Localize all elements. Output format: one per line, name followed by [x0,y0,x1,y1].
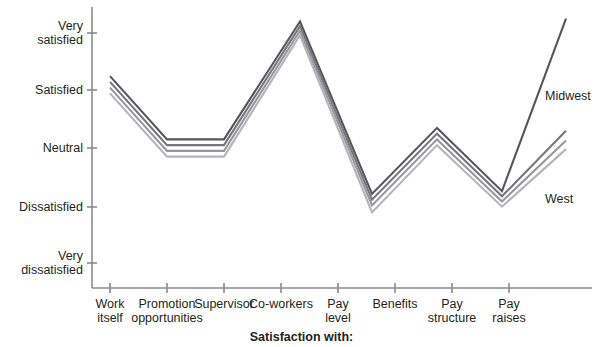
y-axis-tick-label: Verydissatisfied [21,249,83,277]
y-axis-tick-label-line: dissatisfied [21,263,83,277]
y-axis-tick-label: Satisfied [35,83,83,97]
series-label-midwest: Midwest [545,89,591,103]
y-axis-tick-label: Verysatisfied [37,19,83,47]
y-axis-tick-label-line: Neutral [43,141,83,155]
y-axis-tick-label: Neutral [43,141,83,155]
x-axis-tick-label-line: level [278,311,398,325]
x-axis-tick-label-line: raises [449,311,569,325]
x-axis-tick-label-line: opportunities [107,311,227,325]
y-axis-tick-label-line: satisfied [37,33,83,47]
satisfaction-line-chart: VerysatisfiedSatisfiedNeutralDissatisfie… [0,0,603,347]
chart-series-lines [110,19,566,213]
y-axis-tick-label-line: Satisfied [35,83,83,97]
chart-axes [92,7,592,288]
x-axis-title: Satisfaction with: [0,330,603,344]
y-axis-tick-label-line: Very [37,19,83,33]
x-axis-tick-label: Payraises [449,297,569,325]
series-label-west: West [545,192,573,206]
y-axis-tick-label-line: Very [21,249,83,263]
y-axis-tick-label-line: Dissatisfied [19,200,83,214]
chart-plot-area [0,0,603,347]
y-axis-tick-label: Dissatisfied [19,200,83,214]
x-axis-tick-label-line: Pay [449,297,569,311]
series-line [110,19,566,194]
